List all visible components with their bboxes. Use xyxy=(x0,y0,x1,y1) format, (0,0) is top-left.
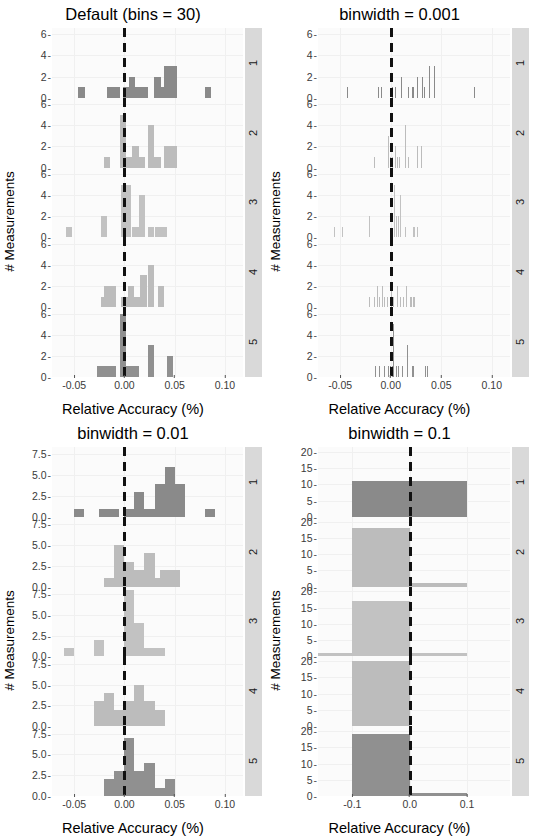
x-tick-label: 0.00 xyxy=(381,375,401,391)
y-tick-label: 15- xyxy=(301,741,317,753)
y-tick-label: 4- xyxy=(307,259,317,271)
gridline xyxy=(318,554,510,555)
reference-line-zero xyxy=(123,656,126,726)
y-tick-label: 10- xyxy=(301,618,317,630)
facet-column: 0.0-2.5-5.0-7.5-10.0-2.5-5.0-7.5-20.0-2.… xyxy=(18,447,262,796)
y-tick-label: 6- xyxy=(41,98,51,110)
gridline-vertical xyxy=(225,28,226,98)
histogram-bar xyxy=(167,356,173,377)
gridline-vertical xyxy=(225,168,226,238)
histogram-bar xyxy=(352,734,409,796)
gridline-vertical xyxy=(74,656,75,726)
gridline-vertical xyxy=(74,98,75,168)
facet-row: 0-2-4-6-1 xyxy=(284,28,529,98)
gridline-vertical xyxy=(74,447,75,517)
y-tick-label: 10- xyxy=(301,548,317,560)
facet-strip-text: 3 xyxy=(515,618,527,624)
y-tick-label: 7.5- xyxy=(32,728,51,740)
histogram-bar xyxy=(393,297,394,308)
y-tick-label: 2- xyxy=(41,280,51,292)
facet-strip-label: 2 xyxy=(512,98,529,168)
gridline xyxy=(318,747,510,748)
x-tick-label: 0.05 xyxy=(164,794,184,810)
y-tick-label: 5.0- xyxy=(32,469,51,481)
histogram-bar xyxy=(369,216,370,237)
reference-line-zero xyxy=(409,587,412,657)
gridline-vertical xyxy=(175,656,176,726)
facet-plot xyxy=(52,517,243,587)
histogram-bar xyxy=(382,286,383,307)
reference-line-zero xyxy=(409,656,412,726)
x-tick-label: 0.00 xyxy=(114,794,134,810)
x-axis-label: Relative Accuracy (%) xyxy=(266,401,533,417)
facet-strip-text: 5 xyxy=(515,758,527,764)
histogram-bar xyxy=(384,297,385,308)
y-tick-label: 6- xyxy=(41,28,51,40)
facet-plot xyxy=(52,168,243,238)
gridline-vertical xyxy=(74,587,75,657)
facet-strip-text: 4 xyxy=(515,688,527,694)
histogram-bar xyxy=(78,87,84,98)
reference-line-zero xyxy=(123,726,126,796)
y-tick-label: 2.5- xyxy=(32,699,51,711)
gridline xyxy=(318,522,510,523)
histogram-bar xyxy=(148,227,154,238)
histogram-bar xyxy=(406,286,407,307)
y-tick-label: 5- xyxy=(307,564,317,576)
y-tick-label: 6- xyxy=(41,238,51,250)
gridline xyxy=(318,661,510,662)
y-tick-label: 4- xyxy=(307,119,317,131)
y-tick-label: 6- xyxy=(307,98,317,110)
gridline xyxy=(52,104,243,105)
reference-line-zero xyxy=(390,237,393,307)
panel-binwidth-01: binwidth = 0.1 # Measurements 0-5-10-15-… xyxy=(266,419,533,838)
facet-strip-text: 5 xyxy=(515,339,527,345)
y-tick-labels: 0-5-10-15-20- xyxy=(284,517,318,587)
reference-line-zero xyxy=(123,168,126,238)
facet-row: 0-2-4-6-4 xyxy=(18,237,262,307)
y-tick-label: 2- xyxy=(307,280,317,292)
facet-plot xyxy=(52,447,243,517)
gridline xyxy=(318,265,510,266)
facet-row: 0-2-4-6-4 xyxy=(284,237,529,307)
x-axis-label: Relative Accuracy (%) xyxy=(266,820,533,836)
y-tick-label: 2- xyxy=(307,140,317,152)
histogram-bar xyxy=(165,467,175,517)
histogram-bar xyxy=(408,87,409,98)
facet-plot xyxy=(318,517,510,587)
gridline-vertical xyxy=(74,517,75,587)
gridline xyxy=(52,216,243,217)
y-tick-label: 15- xyxy=(301,602,317,614)
histogram-bar xyxy=(394,185,395,238)
facet-strip-label: 4 xyxy=(512,656,529,726)
facet-strip-text: 3 xyxy=(248,618,260,624)
y-tick-label: 5- xyxy=(307,704,317,716)
reference-line-zero xyxy=(390,168,393,238)
gridline-vertical xyxy=(74,237,75,307)
x-tick-label: 0.1 xyxy=(460,794,475,810)
gridline xyxy=(52,496,243,497)
histogram-bar xyxy=(379,297,380,308)
histogram-bar xyxy=(407,345,408,377)
facet-strip-text: 2 xyxy=(515,549,527,555)
plot-area: # Measurements 0-2-4-6-10-2-4-6-20-2-4-6… xyxy=(0,24,266,419)
gridline-vertical xyxy=(441,307,442,377)
histogram-bar xyxy=(352,481,409,517)
histogram-bar xyxy=(144,763,154,796)
y-tick-labels: 0-2-4-6- xyxy=(18,307,52,377)
facet-strip-text: 2 xyxy=(248,130,260,136)
gridline-vertical xyxy=(225,587,226,657)
histogram-bar xyxy=(397,286,398,307)
facet-row: 0-2-4-6-5 xyxy=(18,307,262,377)
facet-plot xyxy=(52,307,243,377)
histogram-bar xyxy=(378,87,379,98)
y-tick-label: 20- xyxy=(301,725,317,737)
x-tick-label: 0.10 xyxy=(215,794,235,810)
histogram-bar xyxy=(148,265,154,307)
histogram-bar xyxy=(164,146,177,167)
reference-line-zero xyxy=(409,517,412,587)
facet-strip-label: 1 xyxy=(245,447,262,517)
y-tick-label: 2.5- xyxy=(32,560,51,572)
gridline xyxy=(52,55,243,56)
y-tick-label: 2- xyxy=(41,140,51,152)
